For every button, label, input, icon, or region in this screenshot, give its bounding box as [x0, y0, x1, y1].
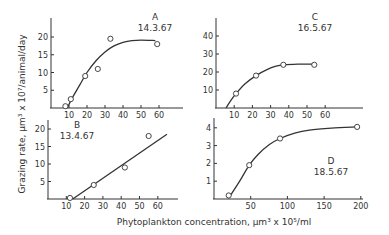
x-tick-label: 200 — [353, 202, 368, 211]
data-point-marker — [122, 165, 127, 170]
y-tick-label: 4 — [206, 124, 211, 133]
y-axis-label: Grazing rate, μm³ x 10⁷/animal/day — [17, 34, 27, 194]
x-tick-label: 40 — [118, 111, 128, 120]
x-tick-label: 10 — [64, 111, 74, 120]
x-tick-label: 40 — [116, 202, 126, 211]
data-point-marker — [108, 36, 113, 41]
data-point-marker — [281, 62, 286, 67]
data-point-marker — [63, 104, 68, 109]
y-tick-label: 5 — [40, 178, 45, 187]
data-point-marker — [67, 195, 72, 200]
data-point-marker — [68, 97, 73, 102]
x-tick-label: 50 — [134, 202, 144, 211]
x-tick-label: 20 — [247, 111, 257, 120]
x-tick-label: 30 — [100, 111, 110, 120]
panel-title: B — [74, 120, 80, 130]
panel-title: C — [312, 12, 318, 22]
panel-c: 10203040102030405060C16.5.67 — [203, 12, 363, 120]
data-point-marker — [233, 91, 238, 96]
x-tick-label: 60 — [320, 111, 330, 120]
data-point-marker — [226, 193, 231, 198]
figure-canvas: 5101520102030405060A14.3.67 510152010203… — [0, 0, 389, 235]
x-tick-label: 100 — [280, 202, 295, 211]
panel-title: D — [328, 156, 335, 166]
y-tick-label: 1 — [206, 177, 211, 186]
x-tick-label: 40 — [284, 111, 294, 120]
x-tick-label: 50 — [302, 111, 312, 120]
y-tick-label: 40 — [203, 32, 213, 41]
y-tick-label: 5 — [43, 86, 48, 95]
panel-b: 5101520102030405060B13.4.67 — [35, 120, 178, 211]
y-tick-label: 2 — [206, 159, 211, 168]
fit-curve — [226, 64, 314, 108]
data-point-marker — [155, 42, 160, 47]
fit-curve — [73, 134, 167, 199]
panel-date: 13.4.67 — [60, 131, 94, 141]
x-axis-label: Phytoplankton concentration, μm³ x 10⁵/m… — [117, 217, 311, 227]
data-point-marker — [277, 136, 282, 141]
x-tick-label: 20 — [82, 111, 92, 120]
y-tick-label: 20 — [203, 68, 213, 77]
x-tick-label: 30 — [98, 202, 108, 211]
data-point-marker — [95, 66, 100, 71]
y-tick-label: 15 — [35, 143, 45, 152]
panel-date: 18.5.67 — [314, 167, 348, 177]
x-tick-label: 150 — [316, 202, 331, 211]
x-tick-label: 10 — [61, 202, 71, 211]
grazing-rate-figure: 5101520102030405060A14.3.67 510152010203… — [0, 0, 389, 235]
y-tick-label: 15 — [38, 51, 48, 60]
data-point-marker — [253, 73, 258, 78]
x-tick-label: 60 — [153, 202, 163, 211]
panel-d: 123450100150200D18.5.67 — [206, 118, 369, 211]
x-tick-label: 10 — [229, 111, 239, 120]
x-tick-label: 50 — [136, 111, 146, 120]
panel-date: 16.5.67 — [298, 23, 332, 33]
data-point-marker — [247, 163, 252, 168]
data-point-marker — [146, 133, 151, 138]
data-point-marker — [91, 182, 96, 187]
x-tick-label: 30 — [266, 111, 276, 120]
data-point-marker — [312, 62, 317, 67]
x-tick-label: 20 — [80, 202, 90, 211]
panel-date: 14.3.67 — [138, 23, 172, 33]
panel-title: A — [152, 12, 159, 22]
y-tick-label: 10 — [203, 86, 213, 95]
y-tick-label: 20 — [38, 33, 48, 42]
data-point-marker — [83, 73, 88, 78]
y-tick-label: 3 — [206, 142, 211, 151]
fit-curve — [67, 40, 155, 108]
y-tick-label: 30 — [203, 50, 213, 59]
x-tick-label: 50 — [246, 202, 256, 211]
panel-a: 5101520102030405060A14.3.67 — [38, 12, 183, 120]
y-tick-label: 10 — [38, 69, 48, 78]
data-point-marker — [355, 124, 360, 129]
y-tick-label: 20 — [35, 125, 45, 134]
x-tick-label: 60 — [154, 111, 164, 120]
y-tick-label: 10 — [35, 160, 45, 169]
